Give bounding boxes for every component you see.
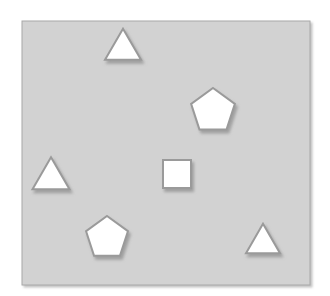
square-center	[163, 160, 191, 188]
shapes-scene	[0, 0, 330, 296]
shape-canvas	[0, 0, 330, 296]
